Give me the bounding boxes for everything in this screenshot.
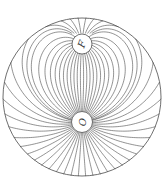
field-line (22, 39, 71, 121)
source-label: O (77, 118, 88, 126)
field-line (92, 39, 141, 121)
field-line (77, 53, 80, 111)
field-line (80, 54, 81, 112)
field-line (89, 130, 130, 160)
field-line (84, 53, 87, 111)
field-line (90, 37, 125, 118)
field-line (70, 19, 79, 34)
field-line (31, 32, 75, 119)
field-line (39, 37, 74, 118)
field-line (78, 18, 81, 34)
field-line-diagram: F O (0, 0, 164, 177)
field-line (91, 43, 114, 116)
source-o: O (72, 112, 93, 133)
field-line (8, 126, 72, 131)
field-line (85, 19, 94, 34)
field-line (89, 32, 133, 119)
field-line (50, 43, 73, 116)
obstacle-f: F (72, 34, 92, 54)
field-line (83, 54, 84, 112)
field-line (92, 126, 156, 131)
field-line (34, 130, 75, 160)
field-line (83, 18, 86, 34)
